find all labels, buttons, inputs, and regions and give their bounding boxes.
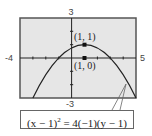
equation-lhs: (x − 1) <box>27 117 57 129</box>
equation-annotation: (x − 1)2 = 4(−1)(y − 1) <box>20 110 134 129</box>
x-max-label: 5 <box>140 53 145 63</box>
focus-label: (1, 0) <box>74 60 96 72</box>
x-min-label: -4 <box>5 53 13 63</box>
equation-rhs: = 4(−1)(y − 1) <box>61 117 127 129</box>
y-min-label: -3 <box>66 99 74 109</box>
y-max-label: 3 <box>69 7 74 17</box>
vertex-point <box>83 43 87 47</box>
vertex-label: (1, 1) <box>74 31 96 43</box>
equation-text: (x − 1)2 = 4(−1)(y − 1) <box>21 111 133 132</box>
